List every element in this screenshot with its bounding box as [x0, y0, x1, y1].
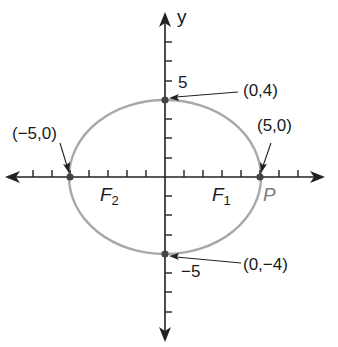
y-axis-label: y	[177, 7, 187, 26]
point-left-vertex	[66, 173, 73, 180]
label-right-vertex: (5,0)	[257, 117, 292, 134]
y-tick-label-negative: −5	[181, 263, 200, 280]
point-bottom-vertex	[161, 250, 168, 257]
leader-right	[260, 143, 271, 173]
focus-letter: F	[100, 184, 112, 205]
y-tick-label-positive: 5	[178, 74, 187, 91]
leader-bottom	[169, 253, 241, 263]
label-left-vertex: (−5,0)	[12, 125, 57, 142]
point-right-vertex	[256, 173, 263, 180]
label-bottom-vertex: (0,−4)	[243, 256, 288, 273]
label-top-vertex: (0,4)	[243, 82, 278, 99]
focus-label-f2: F2	[100, 185, 119, 207]
leader-left	[60, 143, 70, 173]
point-p-label: P	[263, 185, 276, 204]
focus-subscript: 1	[224, 193, 231, 208]
focus-label-f1: F1	[212, 185, 231, 207]
focus-letter: F	[212, 184, 224, 205]
point-top-vertex	[161, 96, 168, 103]
focus-subscript: 2	[112, 193, 119, 208]
ellipse-diagram	[0, 0, 338, 347]
